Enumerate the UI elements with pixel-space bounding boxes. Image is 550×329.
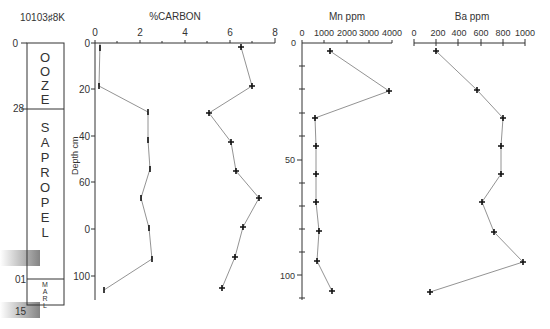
ba-markers	[427, 48, 526, 295]
ba-tick-200: 200	[430, 28, 445, 38]
carbon-tick-8: 8	[272, 27, 278, 38]
carbon-tick-4: 4	[182, 27, 188, 38]
carbon-low-markers	[99, 45, 152, 293]
svg-text:M: M	[42, 281, 48, 288]
mn-tick-2000: 2000	[337, 28, 357, 38]
core-label: 10103♯8K	[20, 12, 65, 23]
unit-sapropel-label: SAPR OPEL	[40, 120, 50, 240]
depth-tick-0: 0	[84, 38, 90, 49]
depth-tick-80: 0	[84, 224, 90, 235]
svg-text:O: O	[40, 180, 50, 195]
depth-axis-label: Depth cm	[70, 136, 80, 175]
mn-line	[315, 51, 389, 291]
mn-tick-4000: 4000	[382, 28, 402, 38]
mn-tick-3000: 3000	[359, 28, 379, 38]
svg-text:S: S	[41, 120, 50, 135]
depth-label-28: 28	[13, 103, 25, 114]
mn-tick-0: 0	[299, 28, 304, 38]
carbon-panel: %CARBON 0 2 4 6 8	[92, 11, 278, 293]
ba-title: Ba ppm	[455, 11, 489, 22]
carbon-low-line	[99, 43, 152, 290]
depth-tick-60: 60	[79, 177, 91, 188]
unit-ooze-label: OOZE	[40, 50, 50, 107]
mn-depth-tick-50: 50	[285, 155, 295, 165]
depth-label-101: 01	[15, 274, 27, 285]
carbon-tick-0: 0	[92, 27, 98, 38]
svg-text:E: E	[41, 92, 50, 107]
svg-text:O: O	[40, 64, 50, 79]
lithology-column: 0 28 01 15 OOZE SAPR OPEL MARL	[12, 38, 64, 317]
depth-tick-100: 100	[73, 271, 90, 282]
svg-text:L: L	[41, 225, 48, 240]
carbon-title: %CARBON	[149, 11, 201, 22]
depth-label-top: 0	[12, 38, 18, 49]
depth-tick-20: 20	[79, 84, 91, 95]
svg-text:E: E	[41, 210, 50, 225]
core-profile-figure: 10103♯8K 0 28 01 15 OOZE SAPR OPEL MARL …	[0, 0, 550, 329]
mn-panel: Mn ppm 0 1000 2000 3000 4000 0 50 100	[280, 11, 402, 300]
ba-tick-0: 0	[411, 28, 416, 38]
svg-text:P: P	[41, 195, 50, 210]
svg-text:A: A	[43, 288, 48, 295]
ba-tick-800: 800	[495, 28, 510, 38]
svg-text:P: P	[41, 150, 50, 165]
carbon-tick-6: 6	[227, 27, 233, 38]
ba-panel: Ba ppm 0 200 400 600 800 1000	[411, 11, 535, 295]
mn-tick-1000: 1000	[314, 28, 334, 38]
depth-axis: 0 20 40 60 0 100 Depth cm	[70, 38, 95, 300]
mn-title: Mn ppm	[329, 11, 365, 22]
mn-depth-tick-0: 0	[291, 38, 296, 48]
mn-depth-tick-100: 100	[280, 271, 295, 281]
ba-tick-600: 600	[473, 28, 488, 38]
carbon-tick-2: 2	[137, 27, 143, 38]
ba-tick-400: 400	[451, 28, 466, 38]
ba-tick-1000: 1000	[515, 28, 535, 38]
svg-text:O: O	[40, 50, 50, 65]
depth-label-115: 15	[15, 306, 27, 317]
svg-text:A: A	[41, 135, 50, 150]
svg-text:L: L	[43, 302, 47, 309]
svg-text:R: R	[42, 295, 47, 302]
svg-text:Z: Z	[41, 78, 49, 93]
carbon-high-markers	[206, 44, 262, 291]
depth-tick-40: 40	[79, 131, 91, 142]
svg-text:R: R	[40, 165, 49, 180]
